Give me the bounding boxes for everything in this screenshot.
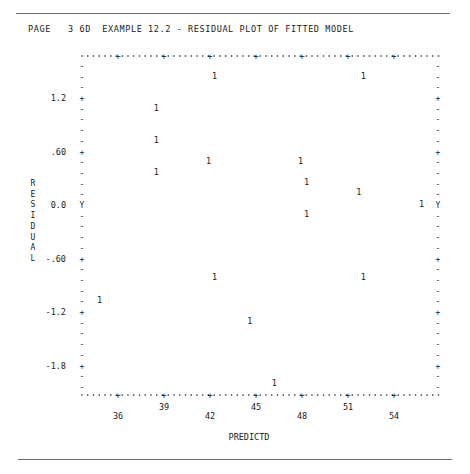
right-axis-mark: -: [436, 73, 441, 82]
y-tick-label: -.60: [46, 254, 66, 264]
data-point: 1: [206, 156, 211, 166]
left-axis-mark: -: [80, 297, 85, 306]
right-axis-mark: -: [436, 244, 441, 253]
left-axis-mark: -: [80, 115, 85, 124]
x-tick-mark: +: [345, 51, 351, 61]
left-axis-mark: -: [80, 265, 85, 274]
x-tick-mark: +: [115, 51, 121, 61]
right-axis-mark: -: [436, 233, 441, 242]
right-axis-mark: -: [436, 351, 441, 360]
x-tick-mark: +: [161, 390, 167, 400]
x-tick-mark: +: [345, 390, 351, 400]
right-axis-mark: -: [436, 62, 441, 71]
left-axis-mark: +: [80, 255, 85, 264]
right-axis-mark: -: [436, 340, 441, 349]
x-tick-label: 39: [159, 402, 169, 412]
x-tick-label: 48: [297, 411, 307, 421]
left-axis-mark: -: [80, 233, 85, 242]
left-axis-mark: -: [80, 190, 85, 199]
right-axis-mark: -: [436, 158, 441, 167]
bottom-rule: [18, 459, 452, 460]
data-point: 1: [272, 378, 277, 388]
left-axis-mark: +: [80, 148, 85, 157]
left-axis-mark: -: [80, 62, 85, 71]
left-axis-mark: -: [80, 169, 85, 178]
right-axis-mark: +: [436, 308, 441, 317]
data-point: 1: [247, 316, 252, 326]
x-tick-label: 36: [113, 411, 123, 421]
x-tick-mark: +: [253, 390, 259, 400]
x-tick-mark: +: [391, 51, 397, 61]
left-axis-mark: +: [80, 94, 85, 103]
bottom-border: +++++++: [81, 390, 439, 400]
right-axis-mark: -: [436, 287, 441, 296]
data-point: 1: [97, 295, 102, 305]
data-point: 1: [304, 177, 309, 187]
right-axis-mark: -: [436, 329, 441, 338]
y-tick-label: 1.2: [51, 93, 66, 103]
left-axis-mark: -: [80, 105, 85, 114]
x-tick-mark: +: [207, 51, 213, 61]
left-axis-mark: -: [80, 340, 85, 349]
y-axis-label-letter: L: [31, 254, 36, 263]
right-axis-mark: -: [436, 190, 441, 199]
left-axis-mark: -: [80, 383, 85, 392]
right-axis-mark: Y: [436, 201, 441, 210]
y-tick-label: -1.8: [46, 361, 66, 371]
left-axis-mark: +: [80, 308, 85, 317]
y-tick-label: -1.2: [46, 307, 66, 317]
y-axis-label-letter: I: [31, 211, 36, 220]
x-tick-label: 51: [343, 402, 353, 412]
y-axis-label-letter: A: [31, 243, 36, 252]
x-axis-label: PREDICTD: [229, 432, 270, 442]
y-axis-label-letter: D: [31, 222, 36, 231]
data-point: 1: [298, 156, 303, 166]
right-axis-mark: -: [436, 383, 441, 392]
x-tick-label: 45: [251, 402, 261, 412]
data-point: 1: [154, 103, 159, 113]
right-axis-mark: -: [436, 169, 441, 178]
x-tick-mark: +: [207, 390, 213, 400]
right-axis-mark: -: [436, 105, 441, 114]
data-point: 1: [154, 135, 159, 145]
x-tick-label: 42: [205, 411, 215, 421]
x-tick-mark: +: [115, 390, 121, 400]
right-axis-mark: +: [436, 148, 441, 157]
x-tick-mark: +: [299, 51, 305, 61]
data-point: 1: [212, 71, 217, 81]
left-axis-mark: -: [80, 126, 85, 135]
left-axis-mark: -: [80, 83, 85, 92]
right-axis-mark: -: [436, 137, 441, 146]
right-axis-mark: +: [436, 255, 441, 264]
right-axis-mark: -: [436, 115, 441, 124]
x-tick-mark: +: [161, 51, 167, 61]
left-axis-mark: -: [80, 319, 85, 328]
right-axis-mark: +: [436, 362, 441, 371]
left-axis-mark: -: [80, 180, 85, 189]
right-axis-mark: -: [436, 265, 441, 274]
right-axis-mark: -: [436, 319, 441, 328]
right-axis-mark: -: [436, 180, 441, 189]
left-axis-mark: -: [80, 137, 85, 146]
y-axis-label-letter: S: [31, 200, 36, 209]
data-point: 1: [304, 209, 309, 219]
data-point: 1: [212, 272, 217, 282]
left-axis-mark: -: [80, 372, 85, 381]
left-axis-mark: +: [80, 362, 85, 371]
right-axis-mark: -: [436, 276, 441, 285]
x-tick-mark: +: [299, 390, 305, 400]
x-tick-label: 54: [389, 411, 399, 421]
right-axis-mark: -: [436, 222, 441, 231]
right-axis-mark: +: [436, 94, 441, 103]
residual-scatter-plot: ++++++++++++++---+----+----Y----+----+--…: [0, 0, 470, 474]
right-axis-mark: -: [436, 212, 441, 221]
data-point: 1: [361, 71, 366, 81]
top-border: +++++++: [81, 51, 439, 61]
left-axis-mark: Y: [80, 201, 85, 210]
right-axis-mark: -: [436, 372, 441, 381]
data-point: 1: [154, 167, 159, 177]
left-axis-mark: -: [80, 212, 85, 221]
data-point: 1: [356, 187, 361, 197]
left-axis-mark: -: [80, 158, 85, 167]
y-axis-label-letter: U: [31, 233, 36, 242]
